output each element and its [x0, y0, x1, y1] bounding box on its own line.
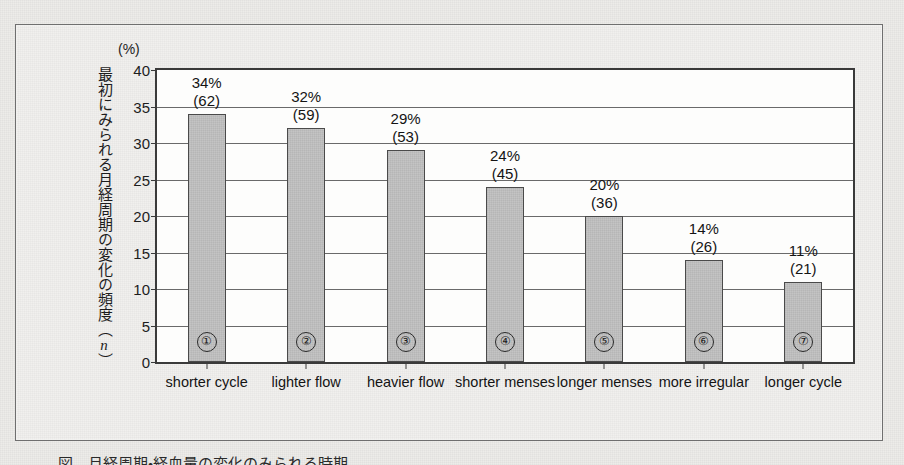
y-axis-tick-mark	[151, 326, 157, 327]
bar-percent-value: 32%	[291, 88, 321, 105]
bar-marker-badge: ⑦	[793, 332, 813, 352]
bar-value-label: 29%(53)	[391, 110, 421, 146]
plot-area: 0510152025303540①34%(62)shorter cycle②32…	[155, 68, 855, 364]
y-axis-tick-label: 35	[133, 98, 150, 115]
bar-value-label: 11%(21)	[789, 242, 818, 278]
x-axis-tick-mark	[703, 362, 704, 369]
bar-value-label: 14%(26)	[689, 220, 719, 256]
x-axis-category-label: more irregular	[649, 374, 759, 391]
x-axis-category-label: lighter flow	[251, 374, 361, 391]
x-axis-tick-mark	[505, 362, 506, 369]
x-axis-category-label: shorter cycle	[152, 374, 262, 391]
y-axis-tick-label: 20	[133, 208, 150, 225]
y-axis-title-italic-n: n	[96, 337, 112, 353]
y-axis-tick-label: 0	[142, 354, 150, 371]
y-axis-tick-mark	[151, 216, 157, 217]
y-axis-unit-label: (%)	[118, 41, 140, 57]
x-axis-category-label: heavier flow	[351, 374, 461, 391]
bar-count-value: (26)	[689, 238, 719, 256]
x-axis-tick-mark	[306, 362, 307, 369]
bar-marker-badge: ①	[197, 332, 217, 352]
bar-percent-value: 11%	[789, 242, 818, 259]
bar: ④	[486, 187, 524, 362]
x-axis-tick-mark	[206, 362, 207, 369]
bar-marker-badge: ②	[296, 332, 316, 352]
y-axis-tick-label: 30	[133, 135, 150, 152]
bar: ⑤	[585, 216, 623, 362]
bar-count-value: (53)	[391, 128, 421, 146]
bar-count-value: (59)	[291, 106, 321, 124]
bar-count-value: (36)	[589, 194, 619, 212]
bar-percent-value: 29%	[391, 110, 421, 127]
bar-percent-value: 20%	[589, 176, 619, 193]
bar-value-label: 20%(36)	[589, 176, 619, 212]
y-axis-tick-label: 40	[133, 62, 150, 79]
y-axis-tick-mark	[151, 70, 157, 71]
y-axis-tick-mark	[151, 289, 157, 290]
x-axis-tick-mark	[405, 362, 406, 369]
y-axis-tick-label: 5	[142, 317, 150, 334]
scanned-page-background: (%) 最初にみられる月経周期の変化の頻度（n） 051015202530354…	[0, 0, 904, 465]
bar-value-label: 34%(62)	[192, 74, 222, 110]
bar-marker-badge: ⑤	[594, 332, 614, 352]
bar-percent-value: 34%	[192, 74, 222, 91]
gridline	[157, 143, 853, 144]
y-axis-tick-mark	[151, 362, 157, 363]
bar-percent-value: 14%	[689, 220, 719, 237]
y-axis-tick-mark	[151, 107, 157, 108]
bar: ③	[387, 150, 425, 362]
y-axis-title: 最初にみられる月経周期の変化の頻度（n）	[86, 52, 112, 382]
bar-marker-badge: ④	[495, 332, 515, 352]
bar-marker-badge: ⑥	[694, 332, 714, 352]
bar-count-value: (45)	[490, 165, 520, 183]
bar-value-label: 24%(45)	[490, 147, 520, 183]
bar-value-label: 32%(59)	[291, 88, 321, 124]
x-axis-category-label: shorter menses	[450, 374, 560, 391]
y-axis-title-text: 最初にみられる月経周期の変化の頻度（	[95, 67, 113, 337]
y-axis-tick-mark	[151, 253, 157, 254]
x-axis-tick-mark	[604, 362, 605, 369]
bar-marker-badge: ③	[396, 332, 416, 352]
gridline	[157, 107, 853, 108]
x-axis-category-label: longer cycle	[748, 374, 858, 391]
bar-percent-value: 24%	[490, 147, 520, 164]
x-axis-category-label: longer menses	[549, 374, 659, 391]
y-axis-tick-mark	[151, 180, 157, 181]
y-axis-title-tail: ）	[95, 353, 113, 368]
x-axis-tick-mark	[803, 362, 804, 369]
bar: ②	[287, 128, 325, 362]
bar-count-value: (62)	[192, 92, 222, 110]
y-axis-tick-label: 10	[133, 281, 150, 298]
bar: ⑥	[685, 260, 723, 362]
y-axis-tick-label: 25	[133, 171, 150, 188]
figure-caption: 図 月経周期・経血量の変化のみられる時期	[58, 452, 348, 465]
bar: ⑦	[784, 282, 822, 362]
y-axis-tick-mark	[151, 143, 157, 144]
bar: ①	[188, 114, 226, 362]
bar-count-value: (21)	[789, 260, 818, 278]
y-axis-tick-label: 15	[133, 244, 150, 261]
